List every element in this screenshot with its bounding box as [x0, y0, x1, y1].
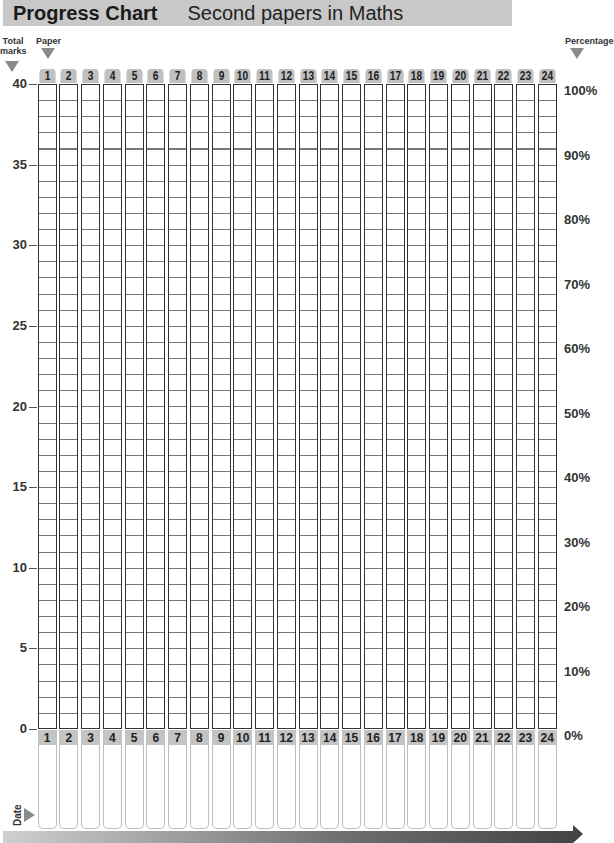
paper-footer-label: 4 [103, 730, 122, 745]
score-grid-cells[interactable] [342, 84, 361, 729]
percentage-tick-label: 90% [564, 148, 590, 163]
y-tick-mark [29, 245, 37, 246]
score-grid-cells[interactable] [103, 84, 122, 729]
date-cell[interactable] [81, 745, 100, 829]
paper-footer-label: 6 [146, 730, 165, 745]
score-grid-cells[interactable] [429, 84, 448, 729]
score-grid-cells[interactable] [255, 84, 274, 729]
paper-header-label: 21 [474, 69, 490, 83]
title-bar: Progress Chart Second papers in Maths [3, 0, 512, 26]
y-tick-mark [29, 568, 37, 569]
date-cell[interactable] [190, 745, 209, 829]
percentage-caption: Percentage [565, 36, 614, 46]
score-grid-cells[interactable] [494, 84, 513, 729]
y-tick-label: 10 [1, 560, 27, 575]
score-grid-cells[interactable] [81, 84, 100, 729]
paper-footer-label: 24 [538, 730, 557, 745]
date-cell[interactable] [277, 745, 296, 829]
score-grid-cells[interactable] [38, 84, 57, 729]
date-cell[interactable] [233, 745, 252, 829]
score-grid-cells[interactable] [190, 84, 209, 729]
paper-header-label: 1 [39, 69, 55, 83]
score-grid-cells[interactable] [299, 84, 318, 729]
score-grid-cells[interactable] [473, 84, 492, 729]
total-marks-caption: Total marks [0, 36, 26, 56]
date-cell[interactable] [538, 745, 557, 829]
paper-header-label: 6 [148, 69, 164, 83]
date-cell[interactable] [146, 745, 165, 829]
paper-footer-label: 18 [407, 730, 426, 745]
paper-header-label: 9 [213, 69, 229, 83]
chart-subtitle: Second papers in Maths [188, 2, 404, 25]
percentage-tick-label: 70% [564, 277, 590, 292]
percentage-tick-label: 10% [564, 664, 590, 679]
paper-footer-label: 5 [125, 730, 144, 745]
date-cell[interactable] [386, 745, 405, 829]
paper-footer-label: 13 [299, 730, 318, 745]
date-cell[interactable] [407, 745, 426, 829]
paper-footer-label: 16 [364, 730, 383, 745]
paper-footer-label: 14 [320, 730, 339, 745]
date-cell[interactable] [342, 745, 361, 829]
percentage-tick-label: 30% [564, 535, 590, 550]
date-cell[interactable] [451, 745, 470, 829]
date-cell[interactable] [299, 745, 318, 829]
percentage-tick-label: 20% [564, 599, 590, 614]
paper-header-label: 5 [126, 69, 142, 83]
chart-title: Progress Chart [13, 2, 158, 25]
y-tick-label: 15 [1, 479, 27, 494]
date-cell[interactable] [473, 745, 492, 829]
paper-header-label: 11 [256, 69, 272, 83]
paper-header-label: 7 [169, 69, 185, 83]
percentage-tick-label: 0% [564, 728, 583, 743]
paper-header-label: 13 [300, 69, 316, 83]
date-cell[interactable] [320, 745, 339, 829]
score-grid-cells[interactable] [277, 84, 296, 729]
total-marks-caption-line1: Total [0, 36, 26, 46]
date-cell[interactable] [212, 745, 231, 829]
y-tick-label: 20 [1, 399, 27, 414]
y-tick-label: 5 [1, 640, 27, 655]
paper-caption: Paper [36, 36, 61, 46]
score-grid-cells[interactable] [386, 84, 405, 729]
score-grid-cells[interactable] [146, 84, 165, 729]
paper-header-label: 12 [278, 69, 294, 83]
date-cell[interactable] [255, 745, 274, 829]
date-cell[interactable] [364, 745, 383, 829]
paper-footer-label: 9 [212, 730, 231, 745]
score-grid-cells[interactable] [212, 84, 231, 729]
date-cell[interactable] [429, 745, 448, 829]
date-cell[interactable] [59, 745, 78, 829]
paper-header-label: 17 [387, 69, 403, 83]
score-grid-cells[interactable] [451, 84, 470, 729]
paper-footer-label: 17 [386, 730, 405, 745]
date-pointer-icon [24, 808, 35, 822]
y-tick-label: 0 [1, 721, 27, 736]
percentage-tick-label: 40% [564, 470, 590, 485]
score-grid-cells[interactable] [125, 84, 144, 729]
y-tick-mark [29, 729, 37, 730]
date-cell[interactable] [125, 745, 144, 829]
percentage-tick-label: 50% [564, 406, 590, 421]
score-grid-cells[interactable] [538, 84, 557, 729]
score-grid-cells[interactable] [168, 84, 187, 729]
score-grid-cells[interactable] [364, 84, 383, 729]
percentage-tick-label: 60% [564, 341, 590, 356]
score-grid-cells[interactable] [516, 84, 535, 729]
total-marks-caption-line2: marks [0, 46, 26, 56]
score-grid-cells[interactable] [233, 84, 252, 729]
paper-pointer-icon [41, 48, 55, 59]
date-cell[interactable] [168, 745, 187, 829]
date-cell[interactable] [38, 745, 57, 829]
y-tick-mark [29, 165, 37, 166]
date-cell[interactable] [494, 745, 513, 829]
score-grid-cells[interactable] [320, 84, 339, 729]
score-grid-cells[interactable] [407, 84, 426, 729]
paper-header-label: 20 [452, 69, 468, 83]
date-cell[interactable] [516, 745, 535, 829]
paper-header-label: 8 [191, 69, 207, 83]
score-grid-cells[interactable] [59, 84, 78, 729]
percentage-pointer-icon [570, 48, 584, 59]
paper-header-label: 3 [82, 69, 98, 83]
date-cell[interactable] [103, 745, 122, 829]
